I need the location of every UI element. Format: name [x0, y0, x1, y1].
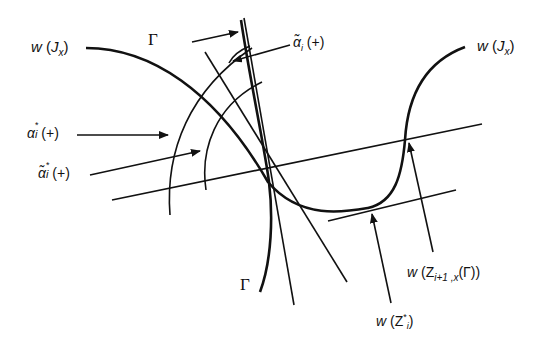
label-open: (Z	[386, 313, 403, 329]
label-sup: *	[46, 160, 50, 170]
tangent-line-lower	[328, 190, 456, 221]
arrow-w-znext	[409, 143, 433, 252]
label-sub: i+1 ,x	[434, 272, 458, 283]
label-alpha-tilde-i: α̃i (+)	[293, 34, 324, 53]
label-paren: )	[510, 37, 515, 54]
label-sym: α̃	[293, 34, 301, 50]
label-sup: *	[35, 120, 39, 130]
label-w-main: w	[477, 37, 488, 54]
label-rest: (+)	[303, 34, 324, 50]
label-w-main: w	[407, 264, 417, 280]
arrow-top	[192, 32, 238, 42]
diagram-canvas	[0, 0, 544, 348]
label-sym: J	[51, 38, 59, 55]
label-rest: (Γ))	[458, 264, 480, 280]
tangent-line-b	[205, 52, 347, 282]
label-w-main: w	[31, 38, 42, 55]
label-sym: α̃	[38, 165, 46, 181]
label-w-z-star: w (Z*i)	[376, 312, 413, 331]
label-paren: (	[42, 38, 51, 55]
label-w-main: w	[376, 313, 386, 329]
label-rest: (+)	[37, 125, 58, 141]
label-w-z-next: w (Zi+1 ,x(Γ))	[407, 264, 480, 283]
label-paren: (	[488, 37, 497, 54]
label-sym: J	[497, 37, 505, 54]
curve-gamma-main	[86, 47, 465, 212]
label-paren: )	[409, 313, 414, 329]
arrow-w-zstar	[372, 214, 391, 303]
label-paren: )	[64, 38, 69, 55]
label-alpha-tilde-star: α̃*i (+)	[38, 165, 70, 181]
arrow-alpha-tilde-i	[233, 45, 290, 61]
angle-arc-outer	[169, 48, 252, 215]
label-gamma-top: Γ	[148, 30, 158, 50]
curve-gamma-branch	[241, 20, 271, 292]
label-w-jx-right: w (Jx)	[477, 37, 515, 57]
label-open: (Z	[417, 264, 434, 280]
label-w-jx-left: w (Jx)	[31, 38, 69, 58]
label-sym: α	[27, 125, 35, 141]
arrow-alpha-tilde-star	[90, 151, 200, 175]
label-rest: (+)	[48, 165, 69, 181]
label-alpha-star: α*i (+)	[27, 125, 59, 141]
label-gamma-bottom: Γ	[240, 275, 250, 295]
